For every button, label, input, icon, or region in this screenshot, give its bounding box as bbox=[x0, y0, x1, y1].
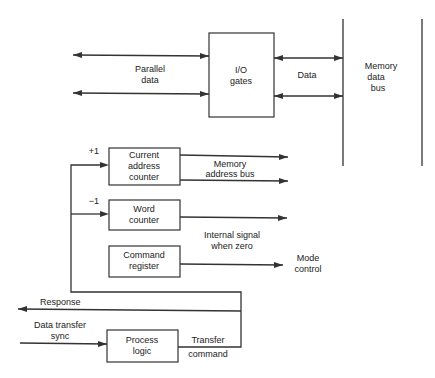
memory-address-bus-label-1: Memory bbox=[214, 159, 247, 169]
process-logic-label-1: Process bbox=[126, 335, 159, 345]
internal-signal-label-1: Internal signal bbox=[204, 230, 260, 240]
mode-control-label-1: Mode bbox=[297, 253, 320, 263]
current-address-counter-label-2: address bbox=[128, 161, 161, 171]
mode-control-line bbox=[180, 262, 283, 268]
command-register-label-1: Command bbox=[123, 250, 165, 260]
io-gates-label-1: I/O bbox=[235, 65, 247, 75]
internal-signal-line bbox=[180, 215, 287, 221]
process-logic-label-2: logic bbox=[133, 346, 152, 356]
word-counter-label-1: Word bbox=[133, 204, 154, 214]
mode-control-label-2: control bbox=[294, 264, 321, 274]
io-gates-label-2: gates bbox=[230, 76, 253, 86]
transfer-command-label-1: Transfer bbox=[191, 335, 224, 345]
data-transfer-sync-line bbox=[20, 341, 107, 347]
parallel-data-upper-line bbox=[73, 52, 209, 59]
data-transfer-sync-label-2: sync bbox=[51, 331, 70, 341]
io-gates-block bbox=[209, 33, 274, 117]
data-lower-line bbox=[274, 93, 343, 99]
parallel-data-label-1: Parallel bbox=[135, 64, 165, 74]
data-transfer-sync-label-1: Data transfer bbox=[34, 320, 86, 330]
word-counter-label-2: counter bbox=[129, 215, 159, 225]
minus-one-label: −1 bbox=[89, 196, 99, 206]
parallel-data-lower-line bbox=[73, 90, 209, 97]
data-label: Data bbox=[297, 70, 316, 80]
current-address-counter-label-3: counter bbox=[129, 172, 159, 182]
memory-data-bus-label-3: bus bbox=[371, 83, 386, 93]
data-upper-line bbox=[274, 55, 343, 61]
transfer-command-label-2: command bbox=[188, 349, 228, 359]
internal-signal-label-2: when zero bbox=[210, 241, 253, 251]
memory-address-bus-label-2: address bus bbox=[205, 169, 255, 179]
dma-controller-diagram: Parallel data I/O gates Data Memory data… bbox=[0, 0, 435, 378]
memory-data-bus-label-1: Memory bbox=[365, 61, 398, 71]
response-label: Response bbox=[40, 297, 81, 307]
parallel-data-label-2: data bbox=[141, 75, 159, 85]
command-register-label-2: register bbox=[129, 261, 159, 271]
current-address-counter-label-1: Current bbox=[129, 150, 160, 160]
memory-data-bus-label-2: data bbox=[367, 72, 385, 82]
plus-one-label: +1 bbox=[89, 146, 99, 156]
